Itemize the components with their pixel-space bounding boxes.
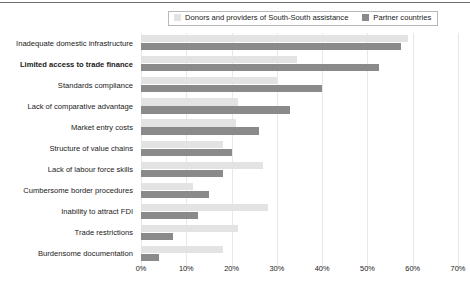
bar-group	[141, 75, 458, 96]
legend-swatch-partner-countries-icon	[362, 14, 369, 21]
bar-group	[141, 223, 458, 244]
category-label: Inadequate domestic infrastructure	[0, 40, 133, 48]
category-label: Limited access to trade finance	[0, 61, 133, 69]
category-label: Trade restrictions	[0, 229, 133, 237]
bar-group	[141, 33, 458, 54]
category-label: Lack of comparative advantage	[0, 103, 133, 111]
bar-group	[141, 54, 458, 75]
bar-group	[141, 181, 458, 202]
category-label: Standards compliance	[0, 82, 133, 90]
bar-donors	[141, 56, 297, 63]
bar-donors	[141, 35, 408, 42]
category-axis-labels: Inadequate domestic infrastructureLimite…	[0, 33, 137, 265]
bar-donors	[141, 77, 277, 84]
legend-entry-donors: Donors and providers of South-South assi…	[174, 14, 348, 22]
chart-legend: Donors and providers of South-South assi…	[168, 11, 438, 26]
legend-label-partner-countries: Partner countries	[373, 14, 431, 22]
category-label: Inability to attract FDI	[0, 208, 133, 216]
category-row: Structure of value chains	[0, 138, 137, 159]
category-label: Cumbersome border procedures	[0, 187, 133, 195]
bar-partner-countries	[141, 191, 209, 198]
category-label: Market entry costs	[0, 124, 133, 132]
bar-partner-countries	[141, 212, 198, 219]
bar-group	[141, 96, 458, 117]
bar-donors	[141, 204, 268, 211]
bar-partner-countries	[141, 127, 259, 134]
bar-donors	[141, 225, 238, 232]
category-row: Limited access to trade finance	[0, 54, 137, 75]
category-row: Cumbersome border procedures	[0, 181, 137, 202]
category-label: Lack of labour force skills	[0, 166, 133, 174]
legend-entry-partner-countries: Partner countries	[362, 14, 431, 22]
bar-donors	[141, 162, 263, 169]
x-tick-label: 40%	[315, 265, 330, 272]
bar-donors	[141, 183, 193, 190]
bar-partner-countries	[141, 170, 223, 177]
x-tick-label: 20%	[224, 265, 239, 272]
category-row: Trade restrictions	[0, 223, 137, 244]
x-tick-label: 60%	[405, 265, 420, 272]
category-row: Lack of labour force skills	[0, 160, 137, 181]
bar-partner-countries	[141, 43, 401, 50]
x-tick-label: 30%	[269, 265, 284, 272]
gridline-70	[458, 33, 459, 271]
bar-group	[141, 117, 458, 138]
x-tick-label: 70%	[451, 265, 466, 272]
top-divider	[0, 2, 470, 3]
legend-swatch-donors-icon	[174, 14, 181, 21]
category-row: Inability to attract FDI	[0, 202, 137, 223]
legend-label-donors: Donors and providers of South-South assi…	[185, 14, 348, 22]
bar-donors	[141, 141, 223, 148]
bar-partner-countries	[141, 233, 173, 240]
chart-plot-wrapper: Inadequate domestic infrastructureLimite…	[0, 33, 470, 271]
category-row: Burdensome documentation	[0, 244, 137, 265]
bar-partner-countries	[141, 64, 379, 71]
bar-partner-countries	[141, 254, 159, 261]
bar-partner-countries	[141, 149, 232, 156]
category-row: Standards compliance	[0, 75, 137, 96]
category-row: Market entry costs	[0, 117, 137, 138]
x-tick-label: 50%	[360, 265, 375, 272]
chart-plot-area	[141, 33, 458, 265]
category-label: Structure of value chains	[0, 145, 133, 153]
x-tick-label: 10%	[179, 265, 194, 272]
category-row: Inadequate domestic infrastructure	[0, 33, 137, 54]
bar-donors	[141, 98, 238, 105]
bar-group	[141, 138, 458, 159]
bar-donors	[141, 246, 223, 253]
bar-group	[141, 160, 458, 181]
x-axis-tick-labels: 0%10%20%30%40%50%60%70%	[141, 265, 458, 279]
bar-group	[141, 202, 458, 223]
x-tick-label: 0%	[136, 265, 147, 272]
bar-donors	[141, 119, 236, 126]
bar-group	[141, 244, 458, 265]
category-row: Lack of comparative advantage	[0, 96, 137, 117]
category-label: Burdensome documentation	[0, 250, 133, 258]
bar-partner-countries	[141, 106, 290, 113]
bar-partner-countries	[141, 85, 322, 92]
